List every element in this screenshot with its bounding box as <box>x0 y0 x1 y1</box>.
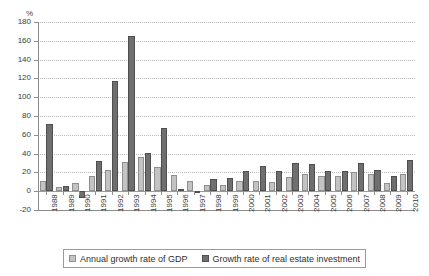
bar-gdp-2005 <box>318 176 324 191</box>
x-axis-tick <box>276 191 277 195</box>
bar-rei-1995 <box>161 128 167 191</box>
y-axis-tick-label: 20 <box>1 167 31 176</box>
bar-gdp-1997 <box>187 181 193 191</box>
bar-rei-2009 <box>391 176 397 191</box>
legend-swatch-icon-rei <box>202 255 209 262</box>
x-axis-tick <box>308 191 309 195</box>
y-axis-tick <box>34 60 38 61</box>
x-axis-tick-label-1994: 1994 <box>149 194 158 212</box>
bars-layer <box>38 22 415 210</box>
y-axis-tick <box>34 41 38 42</box>
x-axis-tick <box>292 191 293 195</box>
bar-gdp-2000 <box>236 181 242 191</box>
bar-rei-1991 <box>96 161 102 191</box>
bar-gdp-1995 <box>154 167 160 191</box>
legend-item-2[interactable]: Growth rate of real estate investment <box>202 254 361 264</box>
x-axis-tick-label-1990: 1990 <box>83 194 92 212</box>
bar-gdp-2010 <box>400 174 406 191</box>
bar-gdp-1996 <box>171 175 177 191</box>
bar-rei-1993 <box>128 36 134 191</box>
bar-rei-1989 <box>63 186 69 192</box>
x-axis-tick <box>358 191 359 195</box>
x-axis-tick <box>407 191 408 195</box>
x-axis-tick <box>390 191 391 195</box>
legend-label: Growth rate of real estate investment <box>213 254 361 264</box>
legend-item-1[interactable]: Annual growth rate of GDP <box>69 254 188 264</box>
x-axis-tick <box>95 191 96 195</box>
bar-rei-1999 <box>227 178 233 191</box>
y-axis-tick <box>34 116 38 117</box>
x-axis-tick-label-1993: 1993 <box>132 194 141 212</box>
y-axis-tick-label: 80 <box>1 111 31 120</box>
x-axis-tick-label-1988: 1988 <box>50 194 59 212</box>
bar-gdp-2009 <box>384 183 390 191</box>
x-axis-tick-label-2010: 2010 <box>411 194 420 212</box>
bar-gdp-1990 <box>72 183 78 191</box>
y-axis-tick <box>34 154 38 155</box>
x-axis-tick-label-1997: 1997 <box>198 194 207 212</box>
x-axis-tick <box>243 191 244 195</box>
y-axis-tick-label: 60 <box>1 130 31 139</box>
x-axis-tick-label-2006: 2006 <box>345 194 354 212</box>
x-axis-tick <box>63 191 64 195</box>
y-axis-tick-label: -20 <box>1 205 31 214</box>
bar-rei-2000 <box>243 171 249 191</box>
bar-gdp-1994 <box>138 157 144 191</box>
x-axis-tick-label-2000: 2000 <box>247 194 256 212</box>
bar-gdp-1992 <box>105 170 111 192</box>
x-axis-tick <box>227 191 228 195</box>
bar-rei-2005 <box>325 171 331 191</box>
bar-rei-2008 <box>374 170 380 192</box>
x-axis-tick <box>161 191 162 195</box>
bar-gdp-2002 <box>269 182 275 191</box>
x-axis-tick-label-1996: 1996 <box>181 194 190 212</box>
y-axis-tick-label: 180 <box>1 17 31 26</box>
chart-legend: Annual growth rate of GDPGrowth rate of … <box>63 249 366 268</box>
bar-gdp-2003 <box>286 177 292 191</box>
x-axis-tick <box>341 191 342 195</box>
bar-gdp-2004 <box>302 174 308 191</box>
x-axis-tick-label-2009: 2009 <box>394 194 403 212</box>
x-axis-tick <box>112 191 113 195</box>
y-axis-tick <box>34 78 38 79</box>
y-axis-tick-label: 160 <box>1 36 31 45</box>
bar-rei-2010 <box>407 160 413 191</box>
bar-rei-2001 <box>260 166 266 191</box>
x-axis-tick-label-2002: 2002 <box>280 194 289 212</box>
x-axis-tick-label-1989: 1989 <box>67 194 76 212</box>
y-axis-tick <box>34 172 38 173</box>
x-axis-tick-label-1999: 1999 <box>231 194 240 212</box>
y-axis-tick <box>34 97 38 98</box>
bar-rei-1996 <box>178 189 184 191</box>
x-axis-tick-label-2001: 2001 <box>263 194 272 212</box>
x-axis-tick-label-1998: 1998 <box>214 194 223 212</box>
bar-rei-1994 <box>145 153 151 192</box>
x-axis-tick <box>194 191 195 195</box>
y-axis-tick <box>34 135 38 136</box>
bar-rei-1992 <box>112 81 118 191</box>
x-axis-tick-label-2005: 2005 <box>329 194 338 212</box>
bar-gdp-1991 <box>89 176 95 191</box>
bar-rei-2003 <box>292 163 298 191</box>
x-axis-tick-label-1992: 1992 <box>116 194 125 212</box>
bar-gdp-2008 <box>368 174 374 191</box>
x-axis-tick-label-1991: 1991 <box>99 194 108 212</box>
bar-gdp-1989 <box>56 187 62 191</box>
x-axis-tick-label-2003: 2003 <box>296 194 305 212</box>
x-axis-tick <box>128 191 129 195</box>
y-axis-tick-label: 100 <box>1 92 31 101</box>
legend-label: Annual growth rate of GDP <box>80 254 188 264</box>
bar-gdp-1999 <box>220 185 226 192</box>
y-axis-tick-label: 40 <box>1 149 31 158</box>
x-axis-tick <box>259 191 260 195</box>
y-axis-tick-label: 0 <box>1 186 31 195</box>
bar-rei-2004 <box>309 164 315 191</box>
x-axis-tick <box>177 191 178 195</box>
legend-swatch-icon-gdp <box>69 255 76 262</box>
x-axis-line <box>38 210 415 211</box>
y-axis-line <box>38 22 39 210</box>
bar-rei-2002 <box>276 171 282 192</box>
x-axis-tick <box>374 191 375 195</box>
plot-area <box>38 22 415 210</box>
bar-rei-1997 <box>194 191 200 193</box>
